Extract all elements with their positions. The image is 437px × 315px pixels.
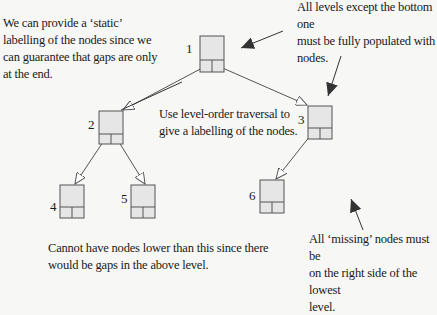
edge-1-3 <box>218 66 307 105</box>
node-4 <box>60 185 84 218</box>
node-2 <box>99 111 123 144</box>
node-6 <box>260 180 284 213</box>
node-5 <box>131 185 155 218</box>
node-3 <box>308 106 332 139</box>
node-1 <box>200 36 224 72</box>
arrow-levels-to-level2 <box>328 56 341 96</box>
arrow-levels-to-node1 <box>241 31 283 48</box>
arrow-missing-up <box>351 199 363 230</box>
arrow-static-to-edge <box>121 82 182 110</box>
edge-2-5 <box>117 139 145 184</box>
edge-2-4 <box>75 139 105 184</box>
